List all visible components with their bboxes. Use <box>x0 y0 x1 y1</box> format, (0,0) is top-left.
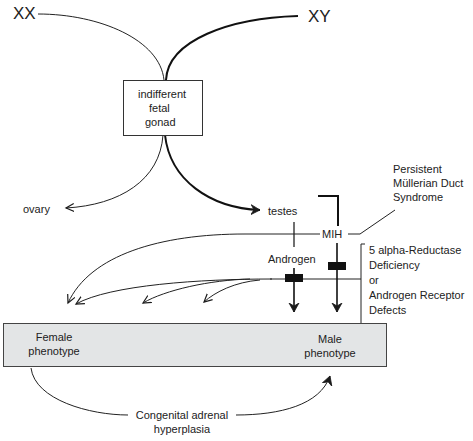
defects-bracket <box>361 244 365 324</box>
female-phenotype-line1: Female <box>24 330 84 344</box>
male-phenotype-line1: Male <box>300 332 360 346</box>
gonad-box: indifferent fetal gonad <box>123 80 203 136</box>
xx-label: XX <box>13 5 36 23</box>
gonad-line-3: gonad <box>145 115 176 129</box>
female-phenotype-line2: phenotype <box>24 344 84 358</box>
diagram-lines <box>0 0 473 441</box>
testes-label: testes <box>268 204 297 218</box>
cah-curve-left <box>31 368 128 415</box>
mih-bracket <box>318 196 338 226</box>
androgen-block <box>285 274 303 282</box>
cah-curve-right <box>236 376 330 415</box>
testes-arrow <box>165 135 260 210</box>
ovary-arrow <box>66 135 163 208</box>
gonad-line-2: fetal <box>149 101 170 115</box>
androgen-label: Androgen <box>268 252 316 266</box>
mih-label: MIH <box>322 227 342 241</box>
phenotype-bar: Female phenotype Male phenotype <box>3 323 387 367</box>
mih-block <box>328 262 346 270</box>
ovary-label: ovary <box>23 202 50 216</box>
xy-label: XY <box>308 8 331 26</box>
mih-line <box>68 234 320 303</box>
xx-path <box>38 14 164 80</box>
mih-to-pmds <box>348 210 395 234</box>
male-phenotype-line2: phenotype <box>300 346 360 360</box>
xy-path <box>166 16 298 80</box>
gonad-line-1: indifferent <box>138 87 186 101</box>
